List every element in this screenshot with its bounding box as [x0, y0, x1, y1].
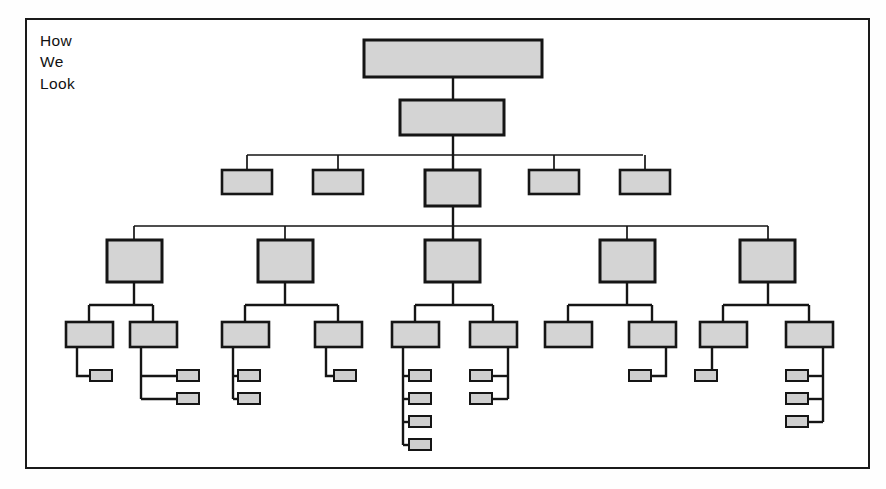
- page-title: How We Look: [40, 30, 75, 94]
- diagram-page: How We Look: [0, 0, 886, 489]
- diagram-frame: [25, 18, 870, 469]
